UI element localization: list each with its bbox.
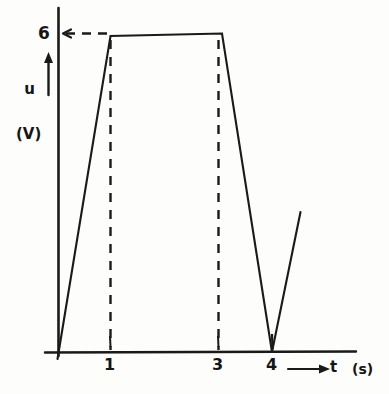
y-axis-quantity-symbol: u: [18, 82, 41, 97]
y-axis-unit-label: (V): [16, 127, 41, 142]
x-axis-arrow-icon: [288, 365, 330, 374]
waveform-curve: [58, 34, 301, 360]
chart-canvas: [0, 0, 389, 394]
y-axis-value-label-6: 6: [38, 25, 50, 42]
x-axis-line: [45, 352, 356, 353]
chart-figure: 6 u (V) 1 3 4 t (s): [0, 0, 389, 394]
x-tick-label-4: 4: [266, 357, 277, 373]
x-tick-label-3: 3: [212, 357, 223, 373]
x-axis-unit-label: (s): [352, 362, 373, 376]
x-axis-quantity-symbol: t: [330, 360, 337, 375]
y-axis-arrow-icon: [44, 52, 53, 95]
x-tick-label-1: 1: [104, 357, 115, 373]
y-axis-title: u (V): [16, 52, 41, 172]
